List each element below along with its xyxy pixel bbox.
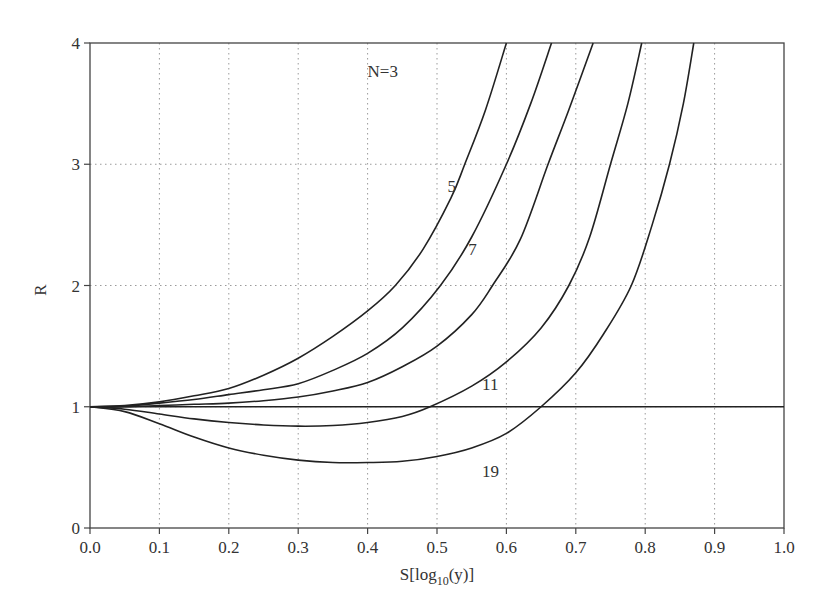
x-tick-label: 0.2 — [218, 538, 239, 557]
curves — [90, 43, 784, 463]
curve-label: N=3 — [368, 62, 398, 81]
grid-lines — [90, 43, 784, 528]
plot-frame — [90, 43, 784, 528]
y-axis-label: R — [31, 284, 50, 296]
x-tick-label: 0.6 — [496, 538, 517, 557]
curve-n5 — [90, 43, 552, 407]
curve-n19 — [90, 43, 694, 463]
curve-label: 11 — [482, 375, 498, 394]
curve-label: 7 — [468, 240, 477, 259]
x-tick-label: 0.8 — [635, 538, 656, 557]
y-tick-label: 3 — [72, 155, 81, 174]
x-tick-label: 0.3 — [288, 538, 309, 557]
axes — [90, 43, 784, 528]
curve-n3 — [90, 43, 506, 407]
y-tick-label: 1 — [72, 398, 81, 417]
y-tick-label: 2 — [72, 277, 81, 296]
curve-label: 19 — [482, 462, 499, 481]
curve-n11 — [90, 43, 642, 426]
y-tick-label: 4 — [72, 34, 81, 53]
y-tick-label: 0 — [72, 519, 81, 538]
x-tick-label: 0.1 — [149, 538, 170, 557]
curve-label: 5 — [447, 177, 456, 196]
y-axis-ticks: 01234 — [72, 34, 91, 538]
x-tick-label: 1.0 — [773, 538, 794, 557]
x-tick-label: 0.0 — [79, 538, 100, 557]
x-tick-label: 0.7 — [565, 538, 587, 557]
x-tick-label: 0.9 — [704, 538, 725, 557]
x-axis-ticks: 0.00.10.20.30.40.50.60.70.80.91.0 — [79, 528, 794, 557]
x-axis-label: S[log10(y)] — [400, 565, 474, 588]
x-tick-label: 0.5 — [426, 538, 447, 557]
x-tick-label: 0.4 — [357, 538, 379, 557]
chart: 0.00.10.20.30.40.50.60.70.80.91.0 01234 … — [0, 0, 832, 611]
